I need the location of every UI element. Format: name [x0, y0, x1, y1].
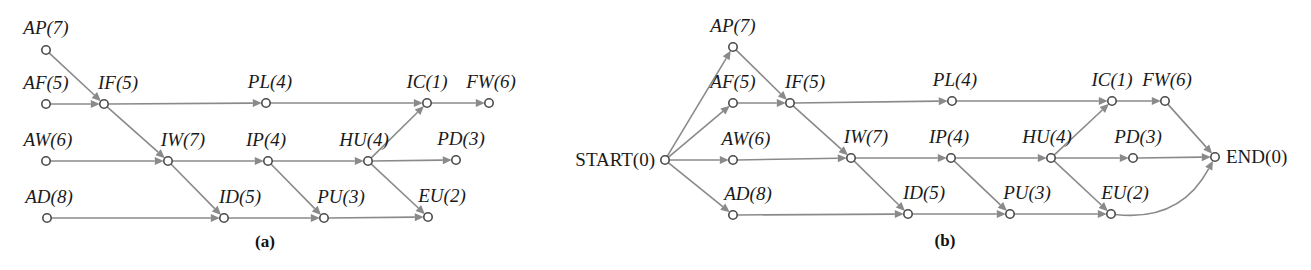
node-IC[interactable]: IC(1) [1090, 69, 1132, 105]
node-EU[interactable]: EU(2) [417, 185, 465, 221]
node-circle-icon [100, 100, 108, 108]
node-AD[interactable]: AD(8) [23, 186, 72, 222]
node-label-IF: IF(5) [784, 71, 825, 93]
arrowhead-icon [211, 214, 220, 222]
arrowhead-icon [155, 157, 164, 165]
nodes-group: AP(7)AF(5)IF(5)PL(4)IC(1)FW(6)AW(6)IW(7)… [21, 17, 515, 222]
panel-caption: (b) [935, 231, 956, 250]
arrowhead-icon [91, 100, 100, 108]
node-label-AF: AF(5) [708, 71, 755, 93]
edge-PL-to-IC [270, 99, 423, 107]
node-label-ID: ID(5) [218, 186, 261, 208]
edge-AD-to-ID [51, 214, 220, 222]
node-IC[interactable]: IC(1) [405, 71, 447, 107]
node-label-START: START(0) [575, 149, 655, 171]
node-IW[interactable]: IW(7) [843, 126, 888, 162]
arrowhead-icon [1120, 154, 1129, 162]
node-PU[interactable]: PU(3) [1002, 182, 1050, 218]
node-END[interactable]: END(0) [1211, 146, 1287, 168]
node-START[interactable]: START(0) [575, 149, 669, 171]
arrowhead-icon [1098, 210, 1107, 218]
arrowhead-icon [838, 154, 847, 162]
node-circle-icon [364, 157, 372, 165]
node-FW[interactable]: FW(6) [465, 71, 516, 107]
edge-FW-to-END [1168, 104, 1212, 154]
node-label-PU: PU(3) [1002, 182, 1050, 204]
node-HU[interactable]: HU(4) [1021, 126, 1072, 162]
node-circle-icon [1161, 97, 1169, 105]
arrowhead-icon [723, 51, 731, 61]
node-AP[interactable]: AP(7) [708, 15, 755, 51]
edge-AD-to-ID [737, 210, 904, 218]
node-circle-icon [1107, 210, 1115, 218]
edge-IF-to-IW [107, 107, 165, 158]
node-circle-icon [661, 156, 669, 164]
node-circle-icon [947, 154, 955, 162]
node-PL[interactable]: PL(4) [932, 69, 977, 105]
node-AP[interactable]: AP(7) [21, 17, 68, 54]
node-IF[interactable]: IF(5) [784, 71, 825, 107]
node-ID[interactable]: ID(5) [902, 182, 945, 218]
node-circle-icon [1006, 210, 1014, 218]
node-circle-icon [1047, 154, 1055, 162]
edge-IW-to-ID [171, 164, 221, 215]
edge-HU-to-EU [1054, 161, 1108, 211]
edge-IF-to-IW [793, 106, 848, 155]
arrowhead-icon [414, 99, 423, 107]
arrowhead-icon [938, 154, 947, 162]
node-ID[interactable]: ID(5) [218, 186, 261, 222]
node-circle-icon [948, 97, 956, 105]
node-label-AP: AP(7) [708, 15, 755, 37]
node-label-EU: EU(2) [417, 185, 465, 207]
arrowhead-icon [255, 157, 264, 165]
node-HU[interactable]: HU(4) [338, 129, 389, 165]
node-EU[interactable]: EU(2) [1100, 182, 1148, 218]
node-IP[interactable]: IP(4) [928, 126, 969, 162]
edge-PU-to-EU [328, 213, 424, 221]
edge-ID-to-PU [912, 210, 1006, 218]
arrowhead-icon [443, 156, 452, 164]
edge-AW-to-IW [50, 157, 164, 165]
node-circle-icon [729, 43, 737, 51]
node-circle-icon [220, 214, 228, 222]
node-label-FW: FW(6) [465, 71, 516, 93]
edge-HU-to-PD [1055, 154, 1129, 162]
node-label-AW: AW(6) [720, 128, 771, 150]
node-circle-icon [485, 99, 493, 107]
node-circle-icon [164, 157, 172, 165]
node-label-FW: FW(6) [1141, 69, 1192, 91]
edge-IP-to-HU [955, 154, 1047, 162]
arrowhead-icon [720, 156, 729, 164]
edge-PL-to-IC [956, 97, 1108, 105]
edge-AW-to-IW [737, 154, 847, 162]
node-circle-icon [729, 211, 737, 219]
node-circle-icon [43, 214, 51, 222]
node-label-AW: AW(6) [22, 129, 73, 151]
edge-START-to-AW [669, 156, 729, 164]
node-circle-icon [320, 214, 328, 222]
node-AF[interactable]: AF(5) [21, 72, 68, 108]
arrowhead-icon [939, 97, 948, 105]
node-IP[interactable]: IP(4) [245, 129, 286, 165]
edge-IW-to-IP [855, 154, 947, 162]
node-label-HU: HU(4) [1021, 126, 1072, 148]
node-PU[interactable]: PU(3) [316, 186, 364, 222]
node-AF[interactable]: AF(5) [708, 71, 755, 107]
edge-IF-to-PL [794, 97, 948, 105]
node-circle-icon [1129, 154, 1137, 162]
node-AD[interactable]: AD(8) [722, 183, 771, 219]
node-circle-icon [847, 154, 855, 162]
node-AW[interactable]: AW(6) [22, 129, 73, 165]
node-label-AD: AD(8) [722, 183, 771, 205]
edge-IF-to-PL [108, 99, 262, 107]
arrowhead-icon [311, 214, 320, 222]
edge-HU-to-PD [372, 156, 452, 164]
node-IF[interactable]: IF(5) [97, 72, 138, 108]
node-label-IF: IF(5) [97, 72, 138, 94]
edge-IW-to-IP [172, 157, 264, 165]
arrowhead-icon [997, 210, 1006, 218]
node-IW[interactable]: IW(7) [160, 129, 205, 165]
arrowhead-icon [777, 99, 786, 107]
node-label-HU: HU(4) [338, 129, 389, 151]
node-FW[interactable]: FW(6) [1141, 69, 1192, 105]
